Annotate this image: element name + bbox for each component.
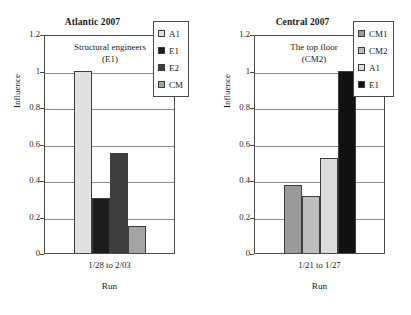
y-tick-label: 0.4 [224, 175, 250, 185]
legend-item-e1[interactable]: E1 [158, 42, 183, 59]
legend-swatch-icon [358, 30, 365, 37]
legend-item-cm2[interactable]: CM2 [358, 42, 388, 59]
y-tick-label: 0 [14, 248, 40, 258]
legend-label: CM2 [369, 46, 388, 56]
legend-label: E2 [169, 63, 179, 73]
bar-cm2 [302, 196, 320, 253]
legend-item-a1[interactable]: A1 [158, 25, 183, 42]
y-tick-label: 1.2 [14, 29, 40, 39]
x-axis-label-right: Run [254, 281, 385, 291]
legend-swatch-icon [158, 30, 165, 37]
bar-a1 [320, 158, 338, 253]
legend-swatch-icon [358, 81, 365, 88]
y-tick-label: 0 [224, 248, 250, 258]
bar-a1 [74, 71, 92, 254]
chart-title-left: Atlantic 2007 [14, 17, 171, 27]
y-tick-label: 0.4 [14, 175, 40, 185]
legend-label: E1 [369, 80, 379, 90]
legend-item-cm[interactable]: CM [158, 76, 183, 93]
x-axis-label-left: Run [44, 281, 175, 291]
legend-right[interactable]: CM1CM2A1E1 [353, 21, 394, 97]
y-tick-label: 1 [224, 66, 250, 76]
bar-e1 [92, 198, 110, 253]
legend-item-cm1[interactable]: CM1 [358, 25, 388, 42]
legend-swatch-icon [158, 47, 165, 54]
y-tick-label: 1 [14, 66, 40, 76]
figure-root: Atlantic 2007 Influence 00.20.40.60.811.… [0, 0, 411, 315]
bar-e2 [110, 153, 128, 253]
legend-label: CM [169, 80, 183, 90]
bar-cm [128, 226, 146, 253]
chart-panel-atlantic: Atlantic 2007 Influence 00.20.40.60.811.… [0, 0, 205, 315]
legend-swatch-icon [158, 64, 165, 71]
legend-label: A1 [169, 29, 180, 39]
bar-cm1 [284, 185, 302, 253]
legend-label: CM1 [369, 29, 388, 39]
y-tick-label: 0.6 [14, 139, 40, 149]
legend-item-e2[interactable]: E2 [158, 59, 183, 76]
category-label-right: 1/21 to 1/27 [254, 260, 385, 270]
legend-swatch-icon [358, 47, 365, 54]
legend-swatch-icon [358, 64, 365, 71]
y-tick-label: 1.2 [224, 29, 250, 39]
legend-left[interactable]: A1E1E2CM [153, 21, 189, 97]
y-tick-mark [250, 254, 254, 255]
bar-e1 [338, 71, 356, 254]
y-tick-label: 0.6 [224, 139, 250, 149]
y-tick-label: 0.8 [224, 102, 250, 112]
y-tick-label: 0.8 [14, 102, 40, 112]
legend-item-e1[interactable]: E1 [358, 76, 388, 93]
chart-panel-central: Central 2007 Influence 00.20.40.60.811.2… [206, 0, 411, 315]
y-tick-label: 0.2 [14, 212, 40, 222]
legend-swatch-icon [158, 81, 165, 88]
y-tick-label: 0.2 [224, 212, 250, 222]
legend-label: E1 [169, 46, 179, 56]
category-label-left: 1/28 to 2/03 [44, 260, 175, 270]
legend-label: A1 [369, 63, 380, 73]
y-tick-mark [40, 254, 44, 255]
legend-item-a1[interactable]: A1 [358, 59, 388, 76]
